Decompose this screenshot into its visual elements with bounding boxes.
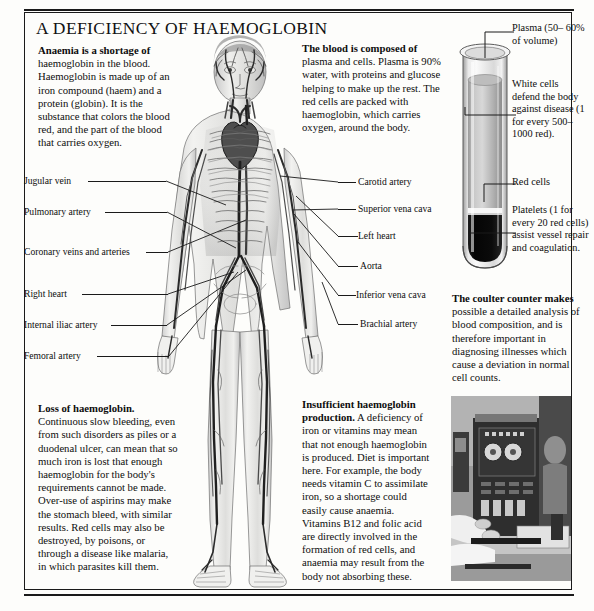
label-coronary-vessels: Coronary veins and arteries bbox=[24, 246, 130, 257]
body-anaemia: haemoglobin in the blood. Haemoglobin is… bbox=[38, 57, 170, 148]
label-femoral-artery: Femoral artery bbox=[24, 350, 81, 361]
heading-blood-composition: The blood is composed of bbox=[302, 42, 417, 54]
body-loss-of-haemoglobin: Continuous slow bleeding, even from such… bbox=[38, 415, 178, 572]
callout-leader-white-cells bbox=[463, 105, 518, 119]
text-block-blood-composition: The blood is composed of plasma and cell… bbox=[302, 42, 448, 134]
label-left-heart: Left heart bbox=[358, 230, 396, 241]
callout-red-cells: Red cells bbox=[512, 176, 586, 189]
text-block-coulter-counter: The coulter counter makes possible a det… bbox=[452, 292, 586, 384]
body-insufficient-production: A deficiency of iron or vitamins may mea… bbox=[302, 411, 429, 581]
label-pulmonary-artery: Pulmonary artery bbox=[24, 206, 91, 217]
callout-platelets: Platelets (1 for every 20 red cells) ass… bbox=[512, 204, 592, 254]
leader-connectors-right bbox=[240, 150, 350, 350]
label-inferior-vena-cava: Inferior vena cava bbox=[356, 289, 426, 300]
frame-top-rule bbox=[24, 9, 574, 11]
heading-anaemia: Anaemia is a shortage of bbox=[38, 44, 150, 56]
label-brachial-artery: Brachial artery bbox=[360, 318, 417, 329]
heading-coulter-counter: The coulter counter makes bbox=[452, 292, 574, 304]
label-jugular-vein: Jugular vein bbox=[24, 175, 71, 186]
blood-test-tube-illustration bbox=[452, 30, 518, 280]
label-internal-iliac-artery: Internal iliac artery bbox=[24, 319, 98, 330]
diagram-page: A DEFICIENCY OF HAEMOGLOBIN bbox=[0, 0, 594, 611]
callout-leader-red-cells bbox=[476, 182, 518, 204]
callout-leader-plasma bbox=[470, 28, 518, 62]
callout-white-cells: White cells defend the body against dise… bbox=[512, 78, 588, 141]
text-block-insufficient-production: Insufficient haemoglobin production. A d… bbox=[302, 398, 430, 583]
label-right-heart: Right heart bbox=[24, 288, 67, 299]
text-block-anaemia: Anaemia is a shortage of haemoglobin in … bbox=[38, 44, 174, 150]
body-blood-composition: plasma and cells. Plasma is 90% water, w… bbox=[302, 55, 441, 133]
callout-leader-platelets bbox=[466, 228, 518, 238]
label-aorta: Aorta bbox=[360, 260, 382, 271]
label-carotid-artery: Carotid artery bbox=[358, 176, 412, 187]
label-superior-vena-cava: Superior vena cava bbox=[358, 203, 432, 214]
text-block-loss-of-haemoglobin: Loss of haemoglobin. Continuous slow ble… bbox=[38, 402, 178, 574]
callout-plasma: Plasma (50– 60% of volume) bbox=[512, 22, 586, 47]
heading-loss-of-haemoglobin: Loss of haemoglobin. bbox=[38, 402, 135, 414]
body-coulter-counter: possible a detailed analysis of blood co… bbox=[452, 305, 580, 383]
coulter-counter-photograph bbox=[451, 396, 571, 581]
